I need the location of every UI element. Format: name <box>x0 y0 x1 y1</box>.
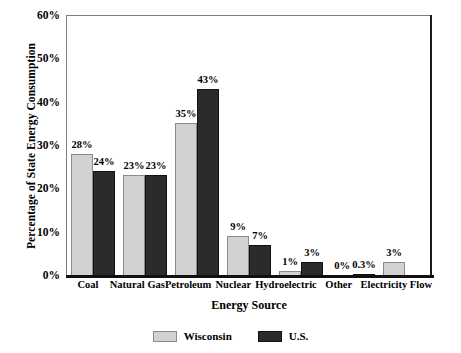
bar-chart: Percentage of State Energy Consumption 0… <box>0 0 461 353</box>
x-tick-label: Hydroelectric <box>255 279 317 295</box>
bar-value-label: 0.3% <box>352 260 376 271</box>
legend-swatch <box>258 331 282 342</box>
chart-legend: WisconsinU.S. <box>0 330 461 342</box>
bar: 9% <box>227 236 249 275</box>
bar-group: 28%24% <box>71 16 115 275</box>
x-tick-label: Electricity Flow <box>361 279 432 295</box>
bar-group: 0%0.3% <box>331 16 375 275</box>
bar-value-label: 1% <box>282 257 298 268</box>
bar-value-label: 24% <box>94 157 115 168</box>
y-tick-label: 30% <box>14 139 60 151</box>
bar: 23% <box>123 175 145 275</box>
bar: 3% <box>301 262 323 275</box>
bar-group: 35%43% <box>175 16 219 275</box>
legend-item: U.S. <box>258 330 309 342</box>
bar-group: 1%3% <box>279 16 323 275</box>
y-axis-ticks: 0%10%20%30%40%50%60% <box>14 0 60 353</box>
y-tick-label: 40% <box>14 96 60 108</box>
y-tick-label: 60% <box>14 9 60 21</box>
bar-value-label: 3% <box>386 248 402 259</box>
bar-value-label: 35% <box>176 109 197 120</box>
bar: 35% <box>175 123 197 275</box>
x-axis-title: Energy Source <box>66 298 432 313</box>
bar-value-label: 7% <box>252 231 268 242</box>
y-tick-label: 50% <box>14 52 60 64</box>
bar: 23% <box>145 175 167 275</box>
legend-item: Wisconsin <box>153 330 232 342</box>
bar-value-label: 43% <box>198 75 219 86</box>
legend-label: Wisconsin <box>184 330 232 342</box>
bar-value-label: 9% <box>230 222 246 233</box>
x-tick-label: Nuclear <box>211 279 255 295</box>
bar-group: 23%23% <box>123 16 167 275</box>
legend-label: U.S. <box>289 330 309 342</box>
x-tick-label: Petroleum <box>165 279 211 295</box>
bar: 3% <box>383 262 405 275</box>
x-tick-label: Coal <box>66 279 110 295</box>
x-tick-label: Natural Gas <box>110 279 165 295</box>
bar-groups: 28%24%23%23%35%43%9%7%1%3%0%0.3%3% <box>67 16 431 275</box>
y-tick-label: 10% <box>14 226 60 238</box>
bar-value-label: 0% <box>334 261 350 272</box>
bar: 24% <box>93 171 115 275</box>
x-axis-line <box>66 275 434 278</box>
bar-value-label: 23% <box>146 161 167 172</box>
legend-swatch <box>153 331 177 342</box>
bar: 7% <box>249 245 271 275</box>
bar-value-label: 3% <box>304 248 320 259</box>
bar: 43% <box>197 89 219 275</box>
y-tick-label: 0% <box>14 269 60 281</box>
bar-value-label: 23% <box>124 161 145 172</box>
plot-area: 28%24%23%23%35%43%9%7%1%3%0%0.3%3% <box>66 15 432 275</box>
x-axis-tick-labels: CoalNatural GasPetroleumNuclearHydroelec… <box>66 279 432 295</box>
bar-group: 3% <box>383 16 427 275</box>
y-tick-label: 20% <box>14 182 60 194</box>
x-tick-label: Other <box>317 279 361 295</box>
bar-group: 9%7% <box>227 16 271 275</box>
bar-value-label: 28% <box>72 140 93 151</box>
bar: 28% <box>71 154 93 275</box>
